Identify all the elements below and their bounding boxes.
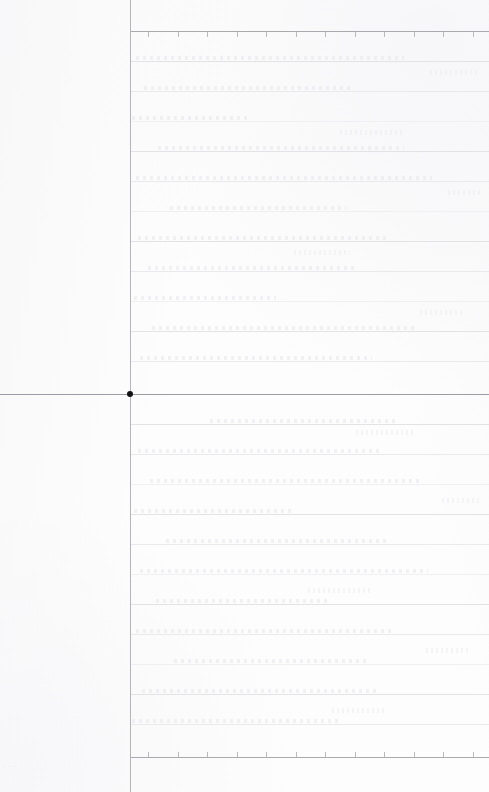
rule-line	[130, 181, 489, 182]
ghost-text-row	[170, 206, 346, 210]
tick-mark-top	[266, 32, 267, 37]
footer-mark: · ·· ·	[3, 763, 17, 769]
tick-mark-top	[443, 32, 444, 37]
ghost-text-row	[140, 569, 428, 573]
rule-line	[130, 271, 489, 272]
ghost-text-block	[420, 310, 464, 315]
rule-line	[130, 241, 489, 242]
tick-mark-bottom	[207, 752, 208, 757]
tick-mark-top	[414, 32, 415, 37]
tick-mark-bottom	[296, 752, 297, 757]
ghost-text-block	[448, 190, 482, 195]
tick-mark-top	[355, 32, 356, 37]
tick-mark-bottom	[473, 752, 474, 757]
ghost-text-row	[136, 629, 392, 633]
tick-mark-top	[148, 32, 149, 37]
ghost-text-row	[150, 479, 420, 483]
rule-line	[130, 634, 489, 635]
ghost-text-row	[144, 86, 354, 90]
tick-mark-bottom	[178, 752, 179, 757]
tick-mark-bottom	[384, 752, 385, 757]
rule-line	[130, 724, 489, 725]
ghost-text-block	[442, 498, 480, 503]
ghost-text-row	[148, 266, 356, 270]
ghost-text-block	[430, 70, 478, 75]
ghost-text-block	[332, 708, 384, 713]
ghost-text-row	[132, 719, 338, 723]
top-axis-line	[130, 31, 489, 32]
ghost-text-block	[340, 130, 402, 135]
rule-line	[130, 424, 489, 425]
ghost-text-row	[210, 419, 396, 423]
rule-line	[130, 91, 489, 92]
ghost-text-row	[136, 176, 432, 180]
ghost-text-row	[156, 599, 330, 603]
tick-mark-top	[296, 32, 297, 37]
ghost-text-row	[138, 236, 390, 240]
rule-line	[130, 331, 489, 332]
ghost-text-row	[134, 509, 292, 513]
ghost-text-row	[140, 356, 372, 360]
ghost-text-block	[426, 648, 468, 653]
tick-mark-bottom	[325, 752, 326, 757]
rule-line	[130, 544, 489, 545]
tick-mark-bottom	[443, 752, 444, 757]
tick-mark-bottom	[414, 752, 415, 757]
tick-mark-top	[473, 32, 474, 37]
rule-line	[130, 454, 489, 455]
tick-mark-bottom	[266, 752, 267, 757]
ghost-text-block	[308, 588, 372, 593]
ghost-text-row	[174, 659, 370, 663]
tick-mark-bottom	[355, 752, 356, 757]
bottom-axis-line	[130, 757, 489, 758]
ruled-body-area	[130, 0, 489, 792]
ghost-text-row	[166, 539, 388, 543]
tick-mark-top	[325, 32, 326, 37]
ghost-text-block	[294, 250, 350, 255]
rule-line	[130, 694, 489, 695]
origin-point-marker	[127, 391, 133, 397]
ghost-text-row	[152, 326, 414, 330]
left-margin-column	[0, 0, 130, 792]
tick-mark-bottom	[148, 752, 149, 757]
rule-line	[130, 664, 489, 665]
origin-horizontal-line	[0, 394, 489, 395]
tick-mark-top	[237, 32, 238, 37]
tick-mark-top	[178, 32, 179, 37]
rule-line	[130, 61, 489, 62]
rule-line	[130, 361, 489, 362]
rule-line	[130, 151, 489, 152]
tick-mark-bottom	[237, 752, 238, 757]
rule-line	[130, 301, 489, 302]
rule-line	[130, 121, 489, 122]
tick-mark-top	[207, 32, 208, 37]
tick-mark-top	[384, 32, 385, 37]
ghost-text-row	[138, 449, 382, 453]
ghost-text-row	[134, 296, 276, 300]
document-page: · ·· ·	[0, 0, 489, 792]
rule-line	[130, 604, 489, 605]
ghost-text-block	[356, 430, 414, 435]
ghost-text-row	[158, 146, 404, 150]
ghost-text-row	[142, 689, 380, 693]
rule-line	[130, 484, 489, 485]
ghost-text-row	[136, 56, 404, 60]
rule-line	[130, 514, 489, 515]
rule-line	[130, 211, 489, 212]
ghost-text-row	[132, 116, 250, 120]
rule-line	[130, 574, 489, 575]
